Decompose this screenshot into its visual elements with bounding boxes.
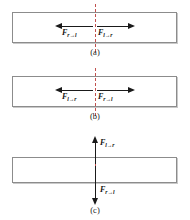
force-label-b-left: Fl→r bbox=[62, 93, 76, 101]
panel-b: Fl→r Fr→l (b) bbox=[0, 64, 190, 124]
force-subscript: l→r bbox=[67, 96, 76, 102]
panel-c: Fl→r Fr→l (c) bbox=[0, 132, 190, 220]
force-subscript: l→r bbox=[103, 32, 112, 38]
arrowhead-up-c bbox=[92, 136, 98, 143]
arrow-left-b bbox=[62, 90, 93, 91]
panel-a: Fr→l Fl→r (a) bbox=[0, 0, 190, 60]
cut-line-a bbox=[95, 4, 96, 52]
force-label-a-right: Fl→r bbox=[98, 29, 112, 37]
caption-a: (a) bbox=[0, 48, 190, 57]
physics-figure: Fr→l Fl→r (a) Fl→r Fr→l (b) bbox=[0, 0, 190, 220]
force-subscript: r→l bbox=[105, 189, 114, 195]
cut-line-b bbox=[95, 68, 96, 116]
arrow-down-c bbox=[95, 166, 96, 198]
arrow-right-b bbox=[97, 90, 128, 91]
arrowhead-left-b bbox=[55, 87, 62, 93]
arrow-left-a bbox=[62, 26, 93, 27]
force-subscript: r→l bbox=[103, 96, 112, 102]
force-label-b-right: Fr→l bbox=[98, 93, 112, 101]
arrowhead-left-a bbox=[55, 23, 62, 29]
arrow-up-c bbox=[95, 142, 96, 164]
arrow-right-a bbox=[97, 26, 128, 27]
force-label-c-up: Fl→r bbox=[100, 139, 114, 147]
arrowhead-right-b bbox=[128, 87, 135, 93]
force-subscript: l→r bbox=[105, 142, 114, 148]
arrowhead-down-c bbox=[92, 198, 98, 205]
arrowhead-right-a bbox=[128, 23, 135, 29]
force-subscript: r→l bbox=[67, 32, 76, 38]
caption-b: (b) bbox=[0, 112, 190, 121]
caption-c: (c) bbox=[0, 206, 190, 215]
force-label-c-down: Fr→l bbox=[100, 186, 114, 194]
force-label-a-left: Fr→l bbox=[62, 29, 76, 37]
